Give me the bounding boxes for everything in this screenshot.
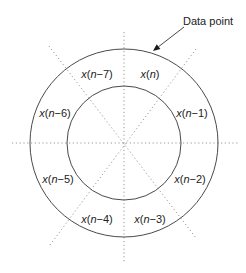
sample-label-n-5: x(n−5) (41, 173, 74, 185)
sample-label-n-1: x(n−1) (175, 107, 208, 119)
sample-label-n-2: x(n−2) (173, 173, 206, 185)
circular-buffer-diagram: x(n)x(n−1)x(n−2)x(n−3)x(n−4)x(n−5)x(n−6)… (0, 0, 246, 273)
sample-label-n-3: x(n−3) (133, 213, 166, 225)
sample-label-n: x(n) (140, 68, 160, 80)
sample-label-n-4: x(n−4) (80, 213, 113, 225)
background (0, 0, 246, 273)
sample-label-n-6: x(n−6) (38, 107, 71, 119)
sample-label-n-7: x(n−7) (80, 68, 113, 80)
data-point-label: Data point (183, 15, 233, 27)
